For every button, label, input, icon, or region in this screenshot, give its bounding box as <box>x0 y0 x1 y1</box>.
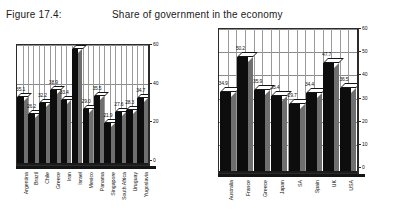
x-axis-category-label: Greece <box>263 180 268 197</box>
x-axis-category-label: Yugoslavia <box>144 172 149 197</box>
bar-value-label: 47.7 <box>322 52 331 57</box>
base-plate-right <box>218 174 365 177</box>
bar-value-label: 38.9 <box>49 80 58 85</box>
y-axis-spine-right <box>358 28 359 174</box>
y-axis-tick-mark <box>149 83 152 84</box>
bar-side-face <box>317 93 322 174</box>
x-axis-labels-right: AustraliaFranceGreeceJapanSASpainUKUSA <box>218 180 358 224</box>
base-plate-left <box>16 166 156 169</box>
plot-area-right: 34.950.235.933.429.734.447.736.5 <box>218 28 358 174</box>
y-axis-tick-mark <box>358 51 361 52</box>
x-axis-category-label: UK <box>332 180 337 187</box>
y-axis-left: 0204060 <box>149 44 168 166</box>
bar <box>126 110 133 165</box>
bar-top-face <box>323 58 344 63</box>
bar-top-face <box>94 92 109 96</box>
bar-top-face <box>237 52 258 57</box>
bar-value-label: 34.7 <box>136 88 145 93</box>
y-axis-tick-label: 40 <box>362 72 368 77</box>
bar <box>271 96 282 173</box>
bar-value-label: 28.3 <box>125 100 134 105</box>
bar-value-label: 21.9 <box>103 113 112 118</box>
bar-value-label: 35.5 <box>93 86 102 91</box>
bar-top-face <box>340 83 358 88</box>
x-axis-category-label: Greece <box>56 172 61 189</box>
bar-value-label: 29.7 <box>288 93 297 98</box>
bar-value-label: 34.4 <box>305 82 314 87</box>
y-axis-tick-label: 50 <box>362 49 368 54</box>
bar-value-label: 33.4 <box>270 85 279 90</box>
bar <box>50 90 57 165</box>
bar <box>83 109 90 165</box>
x-axis-category-label: France <box>246 180 251 196</box>
bar <box>289 104 300 173</box>
chart-developed-economies: 34.950.235.933.429.734.447.736.5 0102030… <box>218 28 378 180</box>
x-axis-category-label: Brazil <box>34 172 39 185</box>
y-axis-right: 0102030405060 <box>358 28 378 174</box>
figure-title: Share of government in the economy <box>112 9 283 20</box>
bar-value-label: 35.9 <box>253 79 262 84</box>
x-axis-category-label: Japan <box>280 180 285 194</box>
figure-root: Figure 17.4: Share of government in the … <box>0 0 394 224</box>
bar-side-face <box>265 90 270 174</box>
bar-side-face <box>248 57 253 174</box>
plot-floor <box>219 171 357 173</box>
bar-value-label: 36.5 <box>339 77 348 82</box>
bar-value-label: 29.0 <box>82 99 91 104</box>
y-axis-tick-mark <box>149 160 152 161</box>
x-axis-category-label: Iran <box>67 172 72 181</box>
x-axis-category-label: South Africa <box>122 172 127 200</box>
bar-value-label: 50.2 <box>236 46 245 51</box>
y-axis-tick-mark <box>149 121 152 122</box>
bar-value-label: 34.9 <box>219 81 228 86</box>
y-axis-tick-label: 0 <box>153 158 156 163</box>
bar <box>115 112 122 165</box>
bar <box>306 93 317 173</box>
x-axis-category-label: USA <box>349 180 354 191</box>
bar <box>340 88 351 173</box>
y-axis-tick-label: 20 <box>153 119 159 124</box>
bar-value-label: 32.2 <box>38 93 47 98</box>
y-axis-tick-label: 20 <box>362 118 368 123</box>
bar-value-label: 26.2 <box>27 104 36 109</box>
x-axis-category-label: Australia <box>229 180 234 200</box>
bar-side-face <box>231 92 236 174</box>
x-axis-category-label: Israel <box>78 172 83 185</box>
x-axis-category-label: Argentina <box>24 172 29 194</box>
bar-side-face <box>351 88 356 174</box>
bar <box>28 114 35 165</box>
y-axis-tick-mark <box>358 167 361 168</box>
bars-right: 34.950.235.933.429.734.447.736.5 <box>219 29 357 173</box>
y-axis-tick-mark <box>358 28 361 29</box>
bar <box>254 90 265 173</box>
bar-value-label: 33.4 <box>60 90 69 95</box>
bar-top-face <box>137 94 149 98</box>
y-axis-spine-left <box>149 44 150 166</box>
y-axis-tick-label: 60 <box>153 42 159 47</box>
y-axis-tick-label: 30 <box>362 95 368 100</box>
x-axis-category-label: Chile <box>45 172 50 184</box>
y-axis-tick-label: 10 <box>362 141 368 146</box>
y-axis-tick-mark <box>358 98 361 99</box>
x-axis-category-label: Panama <box>100 172 105 191</box>
bars-left: 35.126.232.238.933.46029.035.521.927.628… <box>17 45 148 165</box>
y-axis-tick-mark <box>358 74 361 75</box>
bar <box>72 49 79 165</box>
x-axis-category-label: Spain <box>315 180 320 193</box>
bar-value-label: 27.6 <box>114 102 123 107</box>
bar <box>94 96 101 165</box>
x-axis-category-label: Singapore <box>111 172 116 196</box>
x-axis-category-label: SA <box>298 180 303 187</box>
y-axis-tick-mark <box>358 144 361 145</box>
bar-side-face <box>300 104 305 174</box>
bar <box>323 63 334 174</box>
figure-header: Figure 17.4: Share of government in the … <box>0 0 394 30</box>
x-axis-labels-left: ArgentinaBrazilChileGreeceIranIsraelMexi… <box>16 172 149 220</box>
bar <box>104 123 111 165</box>
plot-floor <box>17 163 148 165</box>
bar <box>237 57 248 173</box>
y-axis-tick-label: 60 <box>362 26 368 31</box>
y-axis-tick-mark <box>149 44 152 45</box>
bar <box>17 97 24 165</box>
bar-side-face <box>334 63 339 175</box>
